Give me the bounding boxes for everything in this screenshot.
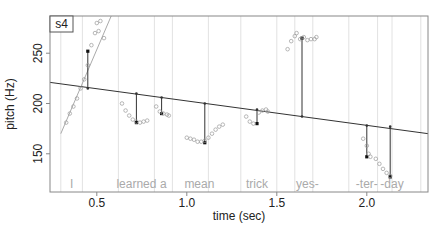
word-boundary-lines — [61, 16, 421, 192]
target-marker — [255, 122, 258, 125]
data-point — [185, 136, 189, 140]
word-labels: Ilearnedameantrickyes--ter--day — [70, 177, 404, 191]
data-point — [306, 38, 310, 42]
baseline-dot — [160, 96, 163, 99]
data-point — [244, 115, 248, 119]
data-point — [192, 138, 196, 142]
data-point — [361, 137, 365, 141]
x-tick-label: 1.0 — [178, 196, 195, 210]
data-point — [286, 47, 290, 51]
baseline-dot — [366, 124, 369, 127]
y-tick-label: 150 — [31, 143, 45, 163]
baseline-dot — [87, 87, 90, 90]
y-axis-label: pitch (Hz) — [3, 78, 17, 129]
baseline-dot — [389, 125, 392, 128]
baseline-dot — [135, 92, 138, 95]
fit-lines — [61, 16, 111, 134]
baseline-dot — [256, 108, 259, 111]
panel-label-box: s4 — [50, 16, 73, 32]
word-label: trick — [246, 177, 269, 191]
data-point — [378, 162, 382, 166]
word-label: yes- — [296, 177, 319, 191]
data-point — [90, 43, 94, 47]
x-axis: 0.51.01.52.0 — [88, 192, 375, 210]
declination-line — [50, 82, 428, 133]
data-point — [295, 31, 299, 35]
word-label: -day — [380, 177, 403, 191]
fit-line — [61, 16, 111, 134]
y-tick-label: 250 — [31, 43, 45, 63]
data-point — [289, 39, 293, 43]
data-point — [214, 128, 218, 132]
x-tick-label: 1.5 — [268, 196, 285, 210]
word-label: mean — [184, 177, 214, 191]
y-axis: 150200250 — [31, 43, 50, 164]
data-point — [196, 140, 200, 144]
data-point — [142, 120, 146, 124]
data-point — [158, 110, 162, 114]
panel-label: s4 — [55, 17, 68, 31]
word-label: learned — [116, 177, 156, 191]
data-point — [369, 155, 373, 159]
data-point — [131, 118, 135, 122]
data-point — [248, 120, 252, 124]
x-tick-label: 0.5 — [88, 196, 105, 210]
word-label: a — [160, 177, 167, 191]
data-point — [374, 157, 378, 161]
data-point — [381, 167, 385, 171]
pitch-points — [64, 19, 392, 177]
word-label: I — [70, 177, 73, 191]
data-point — [95, 21, 99, 25]
data-point — [102, 36, 106, 40]
pitch-chart: Ilearnedameantrickyes--ter--day s4 0.51.… — [0, 0, 448, 230]
data-point — [199, 140, 203, 144]
plot-frame — [50, 16, 428, 192]
data-point — [99, 19, 103, 23]
target-marker — [86, 50, 89, 53]
data-point — [210, 132, 214, 136]
y-tick-label: 200 — [31, 93, 45, 113]
data-point — [189, 137, 193, 141]
word-label: -ter- — [356, 177, 378, 191]
data-point — [97, 29, 101, 33]
data-point — [124, 109, 128, 113]
data-point — [252, 122, 256, 126]
data-point — [385, 171, 389, 175]
data-point — [257, 111, 261, 115]
data-point — [138, 121, 142, 125]
baseline-dot — [301, 115, 304, 118]
baseline-dot — [204, 102, 207, 105]
data-point — [145, 119, 149, 123]
data-point — [221, 123, 225, 127]
data-point — [120, 102, 124, 106]
data-point — [93, 31, 97, 35]
x-tick-label: 2.0 — [358, 196, 375, 210]
data-point — [217, 125, 221, 129]
data-point — [127, 114, 131, 118]
data-point — [309, 37, 313, 41]
data-point — [154, 105, 158, 109]
x-axis-label: time (sec) — [213, 209, 266, 223]
